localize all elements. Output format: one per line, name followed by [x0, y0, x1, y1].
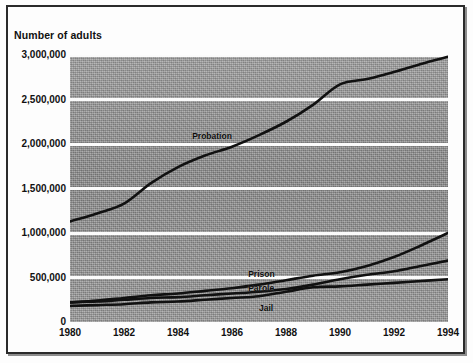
- x-tick-label: 1988: [275, 327, 297, 338]
- y-axis-tick-labels: 0500,0001,000,0001,500,0002,000,0002,500…: [0, 0, 66, 363]
- y-tick-label: 1,000,000: [2, 227, 66, 238]
- y-tick-label: 500,000: [2, 272, 66, 283]
- x-tick-label: 1984: [167, 327, 189, 338]
- x-tick-label: 1986: [221, 327, 243, 338]
- y-tick-label: 2,000,000: [2, 138, 66, 149]
- x-tick-label: 1982: [113, 327, 135, 338]
- y-tick-label: 2,500,000: [2, 94, 66, 105]
- series-label-jail: Jail: [259, 303, 273, 313]
- y-tick-label: 1,500,000: [2, 183, 66, 194]
- x-tick-label: 1992: [383, 327, 405, 338]
- series-label-parole: Parole: [248, 283, 274, 293]
- x-tick-label: 1990: [329, 327, 351, 338]
- x-axis-tick-labels: 19801982198419861988199019921994: [0, 327, 473, 343]
- y-tick-label: 3,000,000: [2, 49, 66, 60]
- plot-area: Probation Prison Parole Jail: [70, 55, 448, 322]
- x-tick-label: 1980: [59, 327, 81, 338]
- y-tick-label: 0: [2, 316, 66, 327]
- x-tick-label: 1994: [437, 327, 459, 338]
- series-label-prison: Prison: [248, 269, 274, 279]
- figure-root: Number of adults 0500,0001,000,0001,500,…: [0, 0, 473, 363]
- series-label-probation: Probation: [192, 131, 232, 141]
- line-probation: [70, 57, 448, 222]
